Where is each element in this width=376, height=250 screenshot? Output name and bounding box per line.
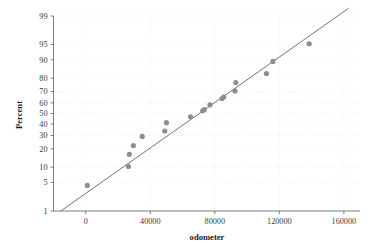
data-point xyxy=(85,183,90,188)
data-point xyxy=(127,152,132,157)
y-tick-label: 40 xyxy=(39,120,47,129)
x-tick-labels-group: 04000080000120000160000 xyxy=(84,217,356,226)
data-point xyxy=(264,71,269,76)
x-tick-label: 160000 xyxy=(332,217,357,226)
y-tick-label: 50 xyxy=(39,109,47,118)
y-tick-label: 99 xyxy=(39,12,47,21)
data-point xyxy=(131,143,136,148)
y-tick-label: 80 xyxy=(39,74,47,83)
data-point xyxy=(270,59,275,64)
data-point xyxy=(162,128,167,133)
y-tick-label: 30 xyxy=(39,131,47,140)
y-tick-labels-group: 151020304050607080909599 xyxy=(39,12,47,216)
data-point xyxy=(202,107,207,112)
x-tick-label: 0 xyxy=(84,217,88,226)
normal-probability-plot: 151020304050607080909599 040000800001200… xyxy=(0,0,376,250)
data-point xyxy=(164,120,169,125)
x-tick-label: 80000 xyxy=(205,217,225,226)
y-tick-label: 60 xyxy=(39,99,47,108)
data-point xyxy=(126,164,131,169)
data-point xyxy=(233,80,238,85)
y-tick-label: 90 xyxy=(39,56,47,65)
data-point xyxy=(221,95,226,100)
y-tick-label: 1 xyxy=(43,207,47,216)
axis-lines-group xyxy=(54,16,361,211)
data-point xyxy=(307,41,312,46)
gridlines-group xyxy=(54,16,361,211)
data-point xyxy=(140,134,145,139)
y-tick-label: 10 xyxy=(39,163,47,172)
x-tick-label: 40000 xyxy=(140,217,160,226)
y-axis-title: Percent xyxy=(14,101,24,129)
data-point xyxy=(188,114,193,119)
x-tick-label: 120000 xyxy=(267,217,292,226)
y-tick-label: 5 xyxy=(43,178,47,187)
y-tick-label: 70 xyxy=(39,87,47,96)
y-tick-label: 95 xyxy=(39,40,47,49)
data-point xyxy=(207,102,212,107)
chart-canvas: 151020304050607080909599 040000800001200… xyxy=(0,0,376,250)
data-point xyxy=(232,88,237,93)
y-tick-label: 20 xyxy=(39,145,47,154)
x-axis-title: odometer xyxy=(190,232,225,242)
